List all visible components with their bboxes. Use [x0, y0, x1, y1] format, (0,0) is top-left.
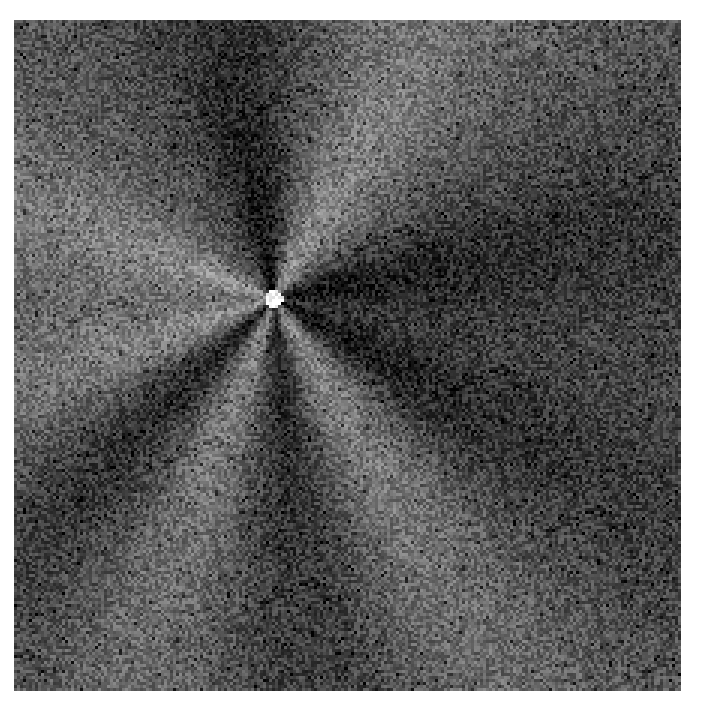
pattern-canvas	[14, 20, 681, 691]
noise-pattern-image	[14, 20, 681, 691]
